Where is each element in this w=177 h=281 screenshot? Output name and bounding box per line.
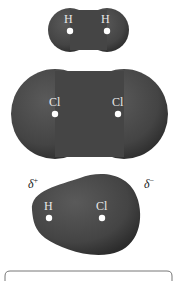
hcl-surface: [32, 174, 140, 255]
atom-dot: [115, 111, 121, 117]
atom-label: H: [44, 199, 53, 214]
atom-label: H: [64, 12, 73, 27]
h2-surface: [48, 8, 129, 52]
cl2-surface: [11, 69, 168, 159]
atom-label: Cl: [112, 95, 123, 110]
bracket-outline: [5, 271, 172, 281]
atom-label: Cl: [96, 199, 107, 214]
atom-dot: [104, 28, 110, 34]
partial-charge-positive: δ+: [28, 176, 38, 192]
atom-dot: [99, 215, 105, 221]
atom-dot: [52, 111, 58, 117]
molecule-diagram: [0, 0, 177, 281]
atom-label: Cl: [49, 95, 60, 110]
atom-label: H: [101, 12, 110, 27]
atom-dot: [67, 28, 73, 34]
partial-charge-negative: δ−: [144, 176, 154, 192]
atom-dot: [46, 215, 52, 221]
